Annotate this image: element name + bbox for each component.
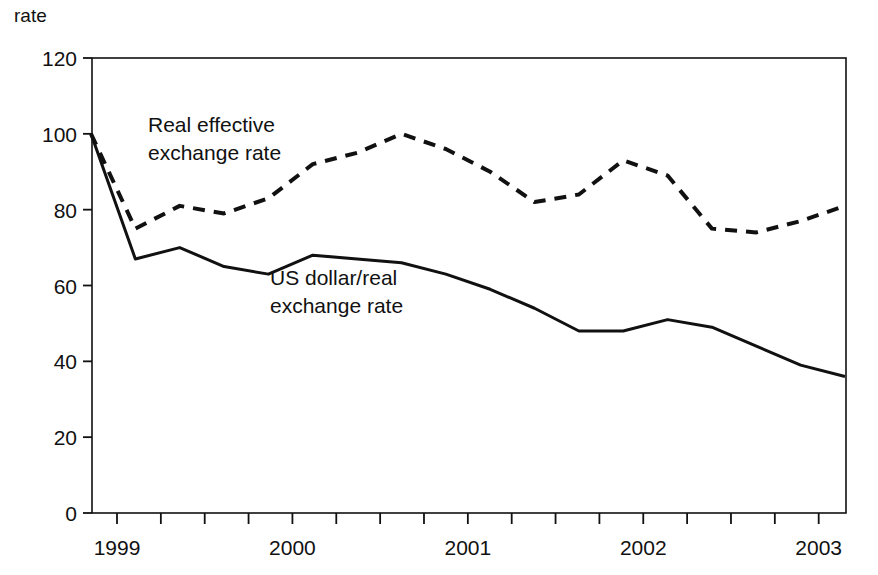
- y-tick-label: 20: [54, 426, 77, 449]
- y-tick-label: 80: [54, 199, 77, 222]
- x-tick-label: 2003: [795, 536, 842, 559]
- y-tick-label: 60: [54, 275, 77, 298]
- chart-background: [0, 0, 878, 575]
- x-tick-label: 2002: [620, 536, 667, 559]
- exchange-rate-line-chart: rate 120100806040200 1999200020012002200…: [0, 0, 878, 575]
- us-dollar-real-exchange-rate-label-line-2: exchange rate: [270, 294, 403, 317]
- real-effective-exchange-rate-label-line-1: Real effective: [148, 113, 275, 136]
- x-tick-label: 2001: [444, 536, 491, 559]
- y-axis-title: rate: [14, 5, 47, 26]
- chart-container: rate 120100806040200 1999200020012002200…: [0, 0, 878, 575]
- y-tick-label: 120: [42, 47, 77, 70]
- x-tick-label: 2000: [269, 536, 316, 559]
- y-tick-label: 100: [42, 123, 77, 146]
- y-tick-label: 40: [54, 350, 77, 373]
- y-tick-label: 0: [65, 502, 77, 525]
- us-dollar-real-exchange-rate-label-line-1: US dollar/real: [270, 266, 397, 289]
- x-tick-label: 1999: [94, 536, 141, 559]
- real-effective-exchange-rate-label-line-2: exchange rate: [148, 141, 281, 164]
